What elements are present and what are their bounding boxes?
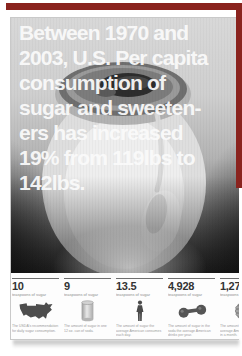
- stat-unit-label: teaspoons of sugar: [64, 292, 111, 297]
- stat-column: 4,928 teaspoons of sugar The amount of s…: [168, 278, 215, 340]
- stat-column: 13.5 teaspoons of sugar The amount of su…: [116, 278, 163, 340]
- stat-caption: The amount of sugar the average American…: [220, 324, 239, 338]
- person-icon: [116, 300, 163, 322]
- us-map-icon: [12, 300, 59, 322]
- stat-column: 1,278 teaspoons of sugar The amount of s…: [220, 278, 239, 340]
- sugar-poster: Between 1970 and2003, U.S. Per capitacon…: [10, 17, 239, 340]
- stat-caption: The USDA's recommendation for daily suga…: [12, 324, 59, 333]
- headline-line: consumption of: [19, 70, 239, 95]
- headline-text: Between 1970 and2003, U.S. Per capitacon…: [19, 20, 239, 195]
- headline-line: 19% from 119lbs to: [19, 145, 239, 170]
- stat-value: 13.5: [116, 281, 163, 292]
- poster-page: Between 1970 and2003, U.S. Per capitacon…: [0, 0, 242, 356]
- stat-value: 9: [64, 281, 111, 292]
- dumbbell-icon: [168, 300, 215, 322]
- poster-drop-shadow: [13, 340, 239, 348]
- soda-can-photo: Between 1970 and2003, U.S. Per capitacon…: [11, 18, 239, 273]
- headline-line: ers has increased: [19, 120, 239, 145]
- stat-unit-label: teaspoons of sugar: [168, 292, 215, 297]
- stat-value: 1,278: [220, 281, 239, 292]
- stat-unit-label: teaspoons of sugar: [12, 292, 59, 297]
- stat-unit-label: teaspoons of sugar: [220, 292, 239, 297]
- stat-value: 10: [12, 281, 59, 292]
- soda-can-icon: [64, 300, 111, 322]
- headline-line: Between 1970 and: [19, 20, 239, 45]
- stat-column: 10 teaspoons of sugar The USDA's recomme…: [12, 278, 59, 340]
- stats-band: 10 teaspoons of sugar The USDA's recomme…: [11, 273, 239, 340]
- stat-unit-label: teaspoons of sugar: [116, 292, 163, 297]
- stat-value: 4,928: [168, 281, 215, 292]
- headline-line: sugar and sweeten-: [19, 95, 239, 120]
- stat-column: 9 teaspoons of sugar The amount of sugar…: [64, 278, 111, 340]
- stat-caption: The amount of sugar in the soda the aver…: [168, 324, 215, 338]
- stat-caption: The amount of sugar in one 12 oz. can of…: [64, 324, 111, 333]
- red-accent-bar-right: [236, 3, 242, 188]
- headline-line: 142lbs.: [19, 170, 239, 195]
- headline-line: 2003, U.S. Per capita: [19, 45, 239, 70]
- red-accent-bar-top: [6, 3, 242, 10]
- stat-caption: The amount of sugar the average American…: [116, 324, 163, 338]
- ball-icon: [220, 300, 239, 322]
